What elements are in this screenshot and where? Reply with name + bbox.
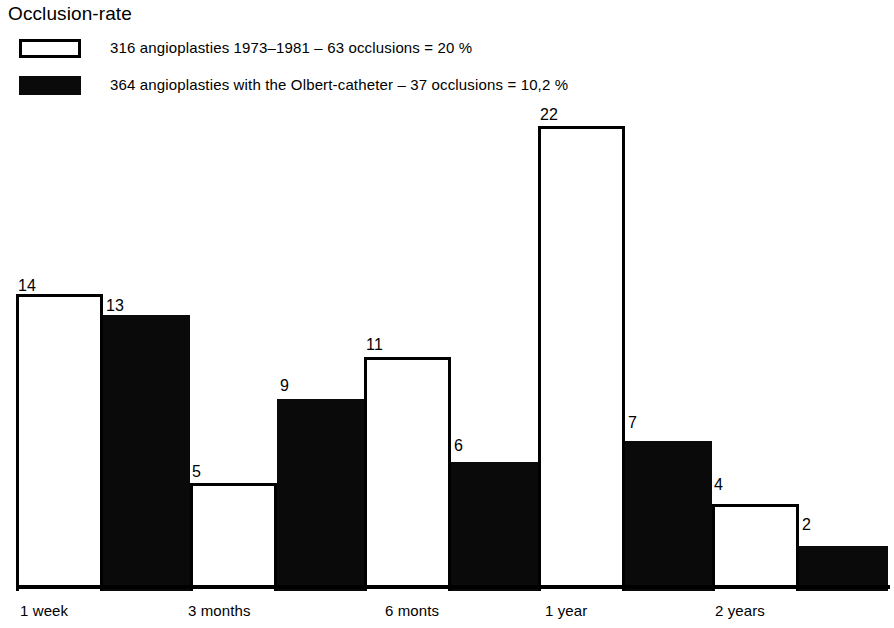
bar-open-1-year [538,126,625,591]
bar-value-label: 9 [280,377,289,395]
bar-chart-plot: 14135911622742 1 week3 months6 monts1 ye… [0,0,894,628]
bar-value-label: 14 [18,277,36,295]
axis-baseline [16,585,890,589]
bar-filled-6-monts [451,462,538,591]
x-axis-label-3-months: 3 months [188,601,251,621]
bar-open-6-monts [364,357,451,591]
bar-value-label: 5 [192,463,201,481]
bar-open-2-years [712,504,799,591]
bar-value-label: 13 [106,297,124,315]
bar-open-3-months [190,483,277,591]
bar-filled-3-months [277,399,364,591]
bar-value-label: 4 [714,476,723,494]
bar-value-label: 2 [802,516,811,534]
x-axis-label-2-years: 2 years [715,601,765,621]
chart-page: Occlusion-rate 316 angioplasties 1973–19… [0,0,894,628]
x-axis-label-6-monts: 6 monts [385,601,439,621]
bar-filled-1-year [625,441,712,591]
bar-filled-1-week [103,315,190,591]
x-axis-label-1-year: 1 year [545,601,587,621]
bar-value-label: 11 [366,336,383,354]
bar-value-label: 6 [454,437,463,455]
bar-value-label: 7 [628,414,637,432]
bar-open-1-week [16,294,103,591]
bar-value-label: 22 [540,106,558,124]
x-axis-label-1-week: 1 week [20,601,68,621]
